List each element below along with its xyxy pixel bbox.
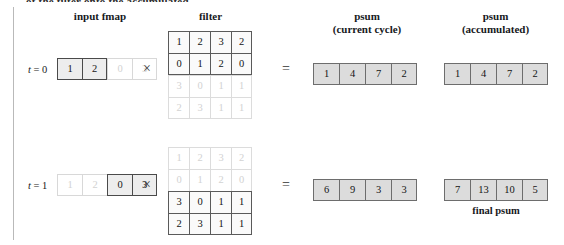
filter-cell: 2 [189, 147, 210, 169]
time-label-row-1-value: = 1 [34, 180, 48, 191]
filter-cell: 3 [168, 75, 189, 97]
filter-cell: 1 [210, 75, 231, 97]
header-psum-current-line1: psum [297, 10, 437, 23]
psum-accumulated-row-0: 1 4 7 2 [444, 63, 548, 85]
header-filter: filter [168, 10, 253, 23]
psum-current-row-1: 6 9 3 3 [313, 179, 417, 201]
header-psum-accumulated: psum (accumulated) [428, 10, 563, 36]
filter-cell: 0 [168, 169, 189, 191]
filter-cell: 2 [210, 53, 231, 75]
filter-cell: 0 [189, 191, 210, 213]
left-margin-rule [13, 7, 14, 240]
psum-accumulated-row-1: 7 13 10 5 [444, 179, 548, 201]
fmap-cell: 2 [82, 174, 107, 196]
fmap-cell: 1 [57, 174, 82, 196]
psum-cell: 2 [522, 63, 548, 85]
systolic-dataflow-figure: of the filter onto the accumulated input… [0, 0, 564, 245]
fmap-cell: 0 [107, 58, 132, 80]
filter-cell: 1 [189, 53, 210, 75]
filter-cell: 1 [231, 75, 252, 97]
filter-cell: 1 [168, 31, 189, 53]
filter-cell: 1 [168, 147, 189, 169]
filter-cell: 0 [189, 75, 210, 97]
header-input-fmap: input fmap [36, 10, 164, 23]
fmap-cell: 2 [82, 58, 107, 80]
time-label-row-0-var: t [28, 64, 31, 75]
psum-cell: 3 [365, 179, 391, 201]
filter-cell: 2 [210, 169, 231, 191]
filter-cell: 1 [231, 191, 252, 213]
psum-cell: 7 [496, 63, 522, 85]
equals-operator-row-1: = [282, 178, 290, 192]
filter-cell: 3 [210, 31, 231, 53]
psum-cell: 7 [444, 179, 470, 201]
psum-cell: 1 [444, 63, 470, 85]
multiply-operator-row-0: × [143, 62, 151, 76]
multiply-operator-row-1: × [143, 178, 151, 192]
time-label-row-0-value: = 0 [34, 64, 48, 75]
filter-cell: 3 [210, 147, 231, 169]
filter-cell: 1 [210, 191, 231, 213]
psum-cell: 2 [391, 63, 417, 85]
psum-current-row-0: 1 4 7 2 [313, 63, 417, 85]
filter-cell: 1 [231, 97, 252, 119]
input-fmap-row-0: 1 2 0 3 [57, 58, 157, 80]
filter-cell: 1 [210, 213, 231, 235]
filter-cell: 2 [231, 147, 252, 169]
psum-cell: 5 [522, 179, 548, 201]
filter-cell: 3 [189, 97, 210, 119]
header-psum-current: psum (current cycle) [297, 10, 437, 36]
clipped-caption-top: of the filter onto the accumulated [26, 0, 326, 2]
psum-cell: 7 [365, 63, 391, 85]
psum-cell: 6 [313, 179, 339, 201]
filter-grid-row-0: 1 2 3 2 0 1 2 0 3 0 1 1 2 3 1 1 [168, 31, 252, 119]
psum-cell: 4 [339, 63, 365, 85]
filter-grid-row-1: 1 2 3 2 0 1 2 0 3 0 1 1 2 3 1 1 [168, 147, 252, 235]
filter-cell: 0 [231, 53, 252, 75]
time-label-row-1-var: t [28, 180, 31, 191]
psum-cell: 9 [339, 179, 365, 201]
psum-cell: 3 [391, 179, 417, 201]
filter-cell: 3 [168, 191, 189, 213]
header-psum-accumulated-line2: (accumulated) [428, 23, 563, 36]
filter-cell: 0 [231, 169, 252, 191]
filter-cell: 1 [210, 97, 231, 119]
psum-cell: 4 [470, 63, 496, 85]
filter-cell: 1 [189, 169, 210, 191]
header-psum-accumulated-line1: psum [428, 10, 563, 23]
filter-cell: 0 [168, 53, 189, 75]
filter-cell: 2 [168, 97, 189, 119]
time-label-row-0: t = 0 [28, 64, 47, 75]
filter-cell: 3 [189, 213, 210, 235]
time-label-row-1: t = 1 [28, 180, 47, 191]
psum-cell: 10 [496, 179, 522, 201]
input-fmap-row-1: 1 2 0 3 [57, 174, 157, 196]
fmap-cell: 1 [57, 58, 82, 80]
equals-operator-row-0: = [282, 62, 290, 76]
final-psum-caption: final psum [444, 205, 548, 216]
filter-cell: 2 [189, 31, 210, 53]
filter-cell: 1 [231, 213, 252, 235]
filter-cell: 2 [168, 213, 189, 235]
psum-cell: 13 [470, 179, 496, 201]
header-psum-current-line2: (current cycle) [297, 23, 437, 36]
psum-cell: 1 [313, 63, 339, 85]
filter-cell: 2 [231, 31, 252, 53]
fmap-cell: 0 [107, 174, 132, 196]
